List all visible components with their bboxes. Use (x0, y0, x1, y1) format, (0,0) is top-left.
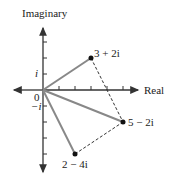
point-3-plus-2i (89, 56, 94, 61)
vector-3-plus-2i (43, 58, 91, 90)
tick-label-neg-i: −i (31, 101, 41, 112)
real-axis-label: Real (144, 85, 164, 96)
dashed-line-bottom (75, 122, 123, 154)
point-5-minus-2i (121, 120, 126, 125)
tick-label-i: i (35, 68, 38, 79)
vector-2-minus-4i (43, 90, 75, 154)
point-label-3-plus-2i: 3 + 2i (94, 48, 120, 59)
point-label-2-minus-4i: 2 − 4i (62, 159, 88, 170)
imaginary-axis-label: Imaginary (22, 8, 67, 19)
point-2-minus-4i (73, 152, 78, 157)
point-label-5-minus-2i: 5 − 2i (128, 117, 154, 128)
vector-5-minus-2i (43, 90, 123, 122)
